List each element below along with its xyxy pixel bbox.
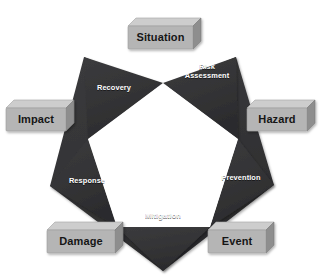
diagram-canvas: Recovery Risk Assessment Prevention Miti… — [0, 0, 320, 277]
box-impact-top — [6, 100, 74, 108]
box-damage-label: Damage — [47, 235, 115, 247]
box-hazard-label: Hazard — [247, 113, 307, 125]
box-damage-top — [47, 222, 123, 230]
box-hazard-top — [247, 100, 315, 108]
star-point-bottom — [117, 227, 210, 271]
box-situation-label: Situation — [128, 31, 193, 43]
box-impact-label: Impact — [6, 113, 66, 125]
box-situation-top — [128, 18, 201, 26]
box-event-label: Event — [208, 235, 266, 247]
box-event-top — [208, 222, 274, 230]
